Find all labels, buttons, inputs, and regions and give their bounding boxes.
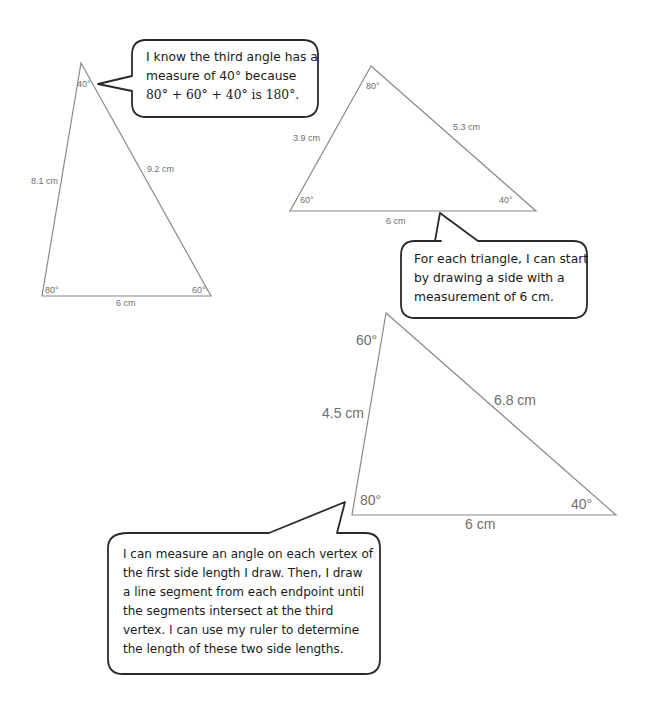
triangle-3-angle-bottom-left: 80° (360, 492, 381, 508)
callout-method-line-5: vertex. I can use my ruler to determine (123, 621, 373, 640)
callout-method-line-1: I can measure an angle on each vertex of (123, 545, 373, 564)
callout-method-line-2: the first side length I draw. Then, I dr… (123, 564, 373, 583)
triangle-1-angle-bottom-right: 60° (192, 285, 206, 295)
callout-third-angle-text: I know the third angle has a measure of … (146, 48, 318, 105)
callout-third-angle-line-3: 80° + 60° + 40° is 180°. (146, 86, 318, 105)
callout-start-side-line-3: measurement of 6 cm. (414, 288, 588, 307)
triangle-3-side-left: 4.5 cm (322, 405, 364, 421)
triangle-2-shape (290, 66, 536, 211)
triangle-3-angle-top: 60° (356, 332, 377, 348)
callout-method-line-3: a line segment from each endpoint until (123, 583, 373, 602)
callout-method-line-6: the length of these two side lengths. (123, 640, 373, 659)
callout-method-text: I can measure an angle on each vertex of… (123, 545, 373, 659)
triangle-1-angle-top: 40° (77, 79, 91, 89)
triangle-1-angle-bottom-left: 80° (45, 285, 59, 295)
triangle-1-side-base: 6 cm (116, 298, 136, 308)
triangle-3-side-right: 6.8 cm (494, 392, 536, 408)
callout-start-side-text: For each triangle, I can start by drawin… (414, 250, 588, 307)
callout-start-side-line-1: For each triangle, I can start (414, 250, 588, 269)
callout-third-angle-line-2: measure of 40° because (146, 67, 318, 86)
triangle-2-side-left: 3.9 cm (293, 133, 320, 143)
triangle-3-angle-bottom-right: 40° (571, 496, 592, 512)
callout-method-line-4: the segments intersect at the third (123, 602, 373, 621)
triangle-2-side-right: 5.3 cm (453, 122, 480, 132)
callout-start-side-line-2: by drawing a side with a (414, 269, 588, 288)
triangle-2-angle-top: 80° (366, 81, 380, 91)
triangle-2-angle-bottom-left: 60° (300, 195, 314, 205)
triangle-1-side-right: 9.2 cm (147, 164, 174, 174)
diagram-canvas: 40° 8.1 cm 9.2 cm 80° 60° 6 cm 80° 3.9 c… (0, 0, 649, 705)
triangle-3-shape (352, 313, 616, 515)
triangle-2-side-base: 6 cm (386, 216, 406, 226)
triangle-2-angle-bottom-right: 40° (499, 195, 513, 205)
callout-third-angle-line-1: I know the third angle has a (146, 48, 318, 67)
triangle-3-side-base: 6 cm (465, 516, 495, 532)
triangle-1-side-left: 8.1 cm (31, 176, 58, 186)
